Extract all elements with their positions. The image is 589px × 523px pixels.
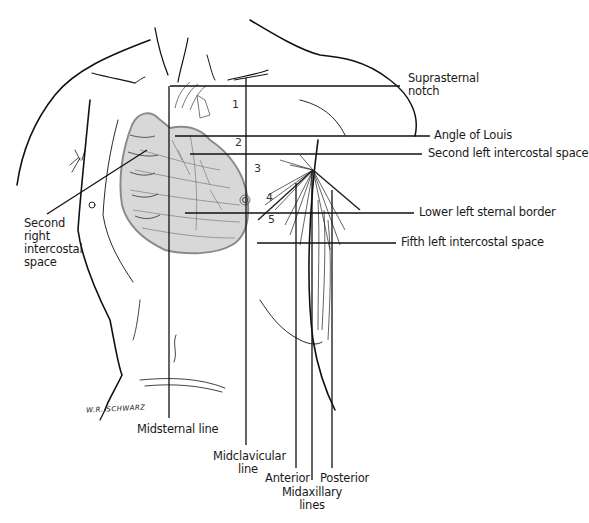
landmark-lines	[47, 74, 430, 480]
intercostal-number-1: 1	[232, 98, 239, 111]
label-second-left-intercostal-space: Second left intercostal space	[428, 147, 589, 160]
heart	[120, 82, 250, 253]
intercostal-number-3: 3	[254, 162, 261, 175]
label-fifth-left-intercostal-space: Fifth left intercostal space	[401, 236, 544, 249]
label-line: lines	[280, 499, 344, 512]
label-line: notch	[408, 85, 479, 98]
intercostal-number-2: 2	[235, 136, 242, 149]
intercostal-number-4: 4	[266, 191, 273, 204]
label-line: space	[24, 256, 82, 269]
label-anterior: Anterior	[265, 472, 310, 485]
intercostal-number-5: 5	[268, 213, 275, 226]
label-posterior: Posterior	[320, 472, 369, 485]
label-second-right-intercostal-space: Second right intercostal space	[24, 217, 82, 269]
label-angle-of-louis: Angle of Louis	[434, 129, 512, 142]
label-lower-left-sternal-border: Lower left sternal border	[419, 206, 556, 219]
label-suprasternal-notch: Suprasternal notch	[408, 72, 479, 98]
label-midsternal-line: Midsternal line	[137, 423, 218, 436]
label-midaxillary-lines: Midaxillary lines	[280, 486, 344, 512]
